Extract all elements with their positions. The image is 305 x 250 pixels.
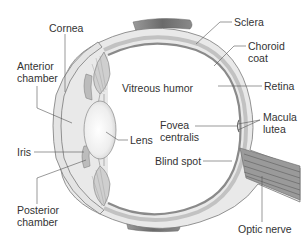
label-vitreous-humor: Vitreous humor [122, 82, 193, 94]
label-fovea-centralis-line2: centralis [160, 131, 199, 143]
label-choroid-coat: Choroid coat [248, 40, 285, 64]
label-macula-lutea-line1: Macula [263, 111, 297, 123]
label-anterior-chamber: Anterior chamber [17, 60, 58, 84]
label-choroid-coat-line2: coat [248, 52, 285, 64]
label-fovea-centralis-line1: Fovea [160, 119, 199, 131]
label-sclera: Sclera [234, 16, 264, 28]
label-cornea: Cornea [49, 22, 83, 34]
label-posterior-chamber-line1: Posterior [17, 204, 59, 216]
label-optic-nerve: Optic nerve [238, 223, 292, 235]
label-iris: Iris [17, 146, 31, 158]
label-macula-lutea: Macula lutea [263, 111, 297, 135]
label-lens: Lens [130, 134, 153, 146]
label-choroid-coat-line1: Choroid [248, 40, 285, 52]
label-retina: Retina [264, 80, 294, 92]
label-blind-spot: Blind spot [155, 155, 201, 167]
label-posterior-chamber-line2: chamber [17, 216, 59, 228]
label-anterior-chamber-line1: Anterior [17, 60, 58, 72]
lens-shape [84, 101, 116, 159]
label-anterior-chamber-line2: chamber [17, 72, 58, 84]
label-macula-lutea-line2: lutea [263, 123, 297, 135]
label-fovea-centralis: Fovea centralis [160, 119, 199, 143]
label-posterior-chamber: Posterior chamber [17, 204, 59, 228]
